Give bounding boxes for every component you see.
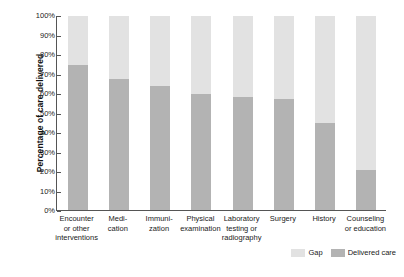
y-axis-tick-label: 30% — [40, 149, 57, 157]
bar-stack — [191, 16, 211, 210]
legend-item[interactable]: Delivered care — [331, 249, 396, 257]
bar-segment-gap[interactable] — [68, 16, 88, 65]
x-axis-label-line: testing or — [217, 224, 266, 234]
y-axis-tick-label: 100% — [36, 12, 57, 20]
bar-stack — [109, 16, 129, 210]
bar-series-group — [57, 16, 386, 210]
bar-column[interactable] — [233, 16, 253, 210]
bar-segment-delivered-care[interactable] — [315, 123, 335, 210]
bar-segment-delivered-care[interactable] — [233, 97, 253, 210]
bar-column[interactable] — [356, 16, 376, 210]
stacked-bar-chart: Percentage of care delivered 100%90%80%7… — [0, 0, 404, 277]
y-axis-tick-label: 40% — [40, 129, 57, 137]
bar-segment-delivered-care[interactable] — [191, 94, 211, 210]
bar-segment-delivered-care[interactable] — [68, 65, 88, 211]
legend-swatch — [331, 249, 345, 257]
bar-segment-delivered-care[interactable] — [274, 99, 294, 210]
bar-segment-gap[interactable] — [191, 16, 211, 94]
bar-segment-gap[interactable] — [274, 16, 294, 99]
y-axis-tick-label: 50% — [40, 110, 57, 118]
x-axis-label: Counselingor education — [341, 214, 390, 233]
y-axis-tick-label: 20% — [40, 168, 57, 176]
bar-column[interactable] — [68, 16, 88, 210]
bar-stack — [150, 16, 170, 210]
bar-segment-gap[interactable] — [150, 16, 170, 86]
bar-stack — [274, 16, 294, 210]
bar-column[interactable] — [274, 16, 294, 210]
y-axis-tick-label: 90% — [40, 32, 57, 40]
bar-segment-delivered-care[interactable] — [109, 79, 129, 210]
bar-stack — [315, 16, 335, 210]
chart-legend: GapDelivered care — [291, 249, 396, 257]
bar-stack — [233, 16, 253, 210]
legend-swatch — [291, 249, 305, 257]
x-axis-label-line: or education — [341, 224, 390, 234]
y-axis-tick-label: 60% — [40, 90, 57, 98]
bar-stack — [68, 16, 88, 210]
legend-label: Delivered care — [348, 249, 396, 257]
y-axis-tick-label: 10% — [40, 188, 57, 196]
x-axis-label-line: interventions — [52, 233, 101, 243]
bar-segment-gap[interactable] — [356, 16, 376, 170]
bar-segment-gap[interactable] — [109, 16, 129, 79]
x-axis-labels: Encounteror otherinterventionsMedi-catio… — [56, 214, 386, 254]
bar-column[interactable] — [315, 16, 335, 210]
bar-segment-delivered-care[interactable] — [356, 170, 376, 210]
bar-column[interactable] — [109, 16, 129, 210]
bar-stack — [356, 16, 376, 210]
bar-column[interactable] — [150, 16, 170, 210]
legend-item[interactable]: Gap — [291, 249, 322, 257]
x-axis-label-line: Counseling — [341, 214, 390, 224]
bar-segment-gap[interactable] — [233, 16, 253, 97]
bar-segment-delivered-care[interactable] — [150, 86, 170, 210]
y-axis-tick-label: 80% — [40, 51, 57, 59]
bar-segment-gap[interactable] — [315, 16, 335, 123]
plot-area: 100%90%80%70%60%50%40%30%20%10%0% — [56, 16, 386, 211]
y-axis-tick-label: 70% — [40, 71, 57, 79]
bar-column[interactable] — [191, 16, 211, 210]
x-axis-label-line: radiography — [217, 233, 266, 243]
y-axis-tick-mark — [57, 211, 61, 212]
legend-label: Gap — [308, 249, 322, 257]
